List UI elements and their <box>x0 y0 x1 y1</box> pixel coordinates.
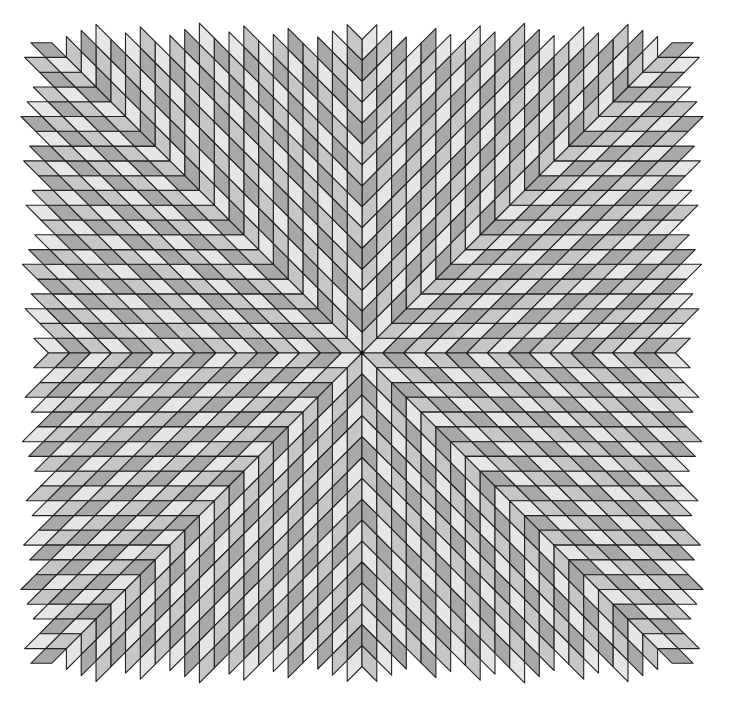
rhombus-star-tiling <box>0 0 731 719</box>
rhombus-tile <box>31 43 67 58</box>
center-vertex <box>360 351 364 355</box>
rhombus-tile <box>31 649 67 664</box>
rhombus-tile <box>658 43 694 58</box>
rhombus-tile <box>658 649 694 664</box>
